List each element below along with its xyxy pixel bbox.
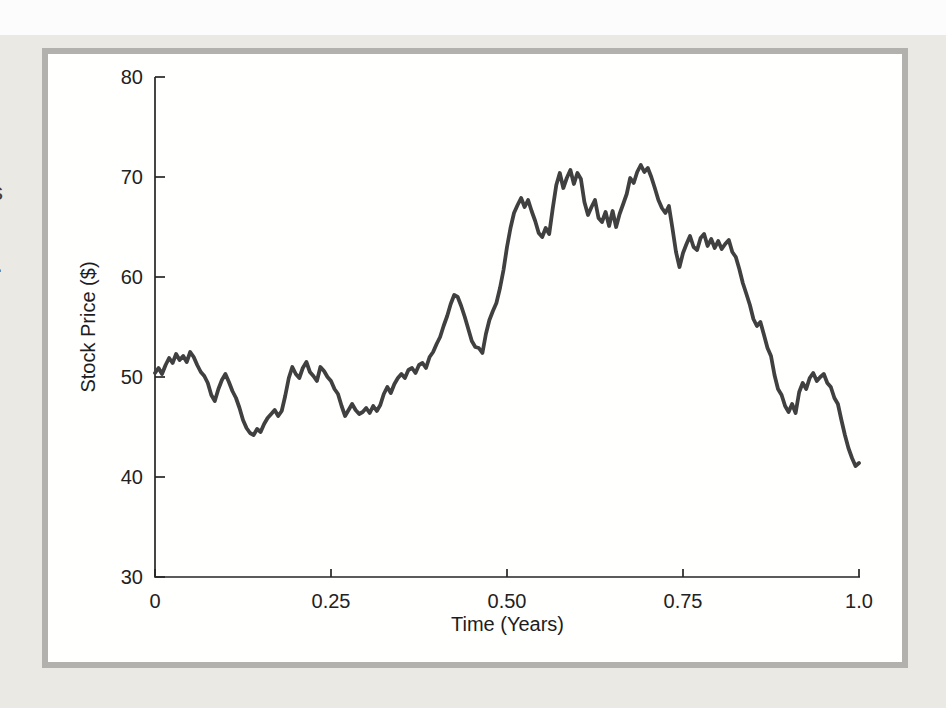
margin-text-fragment-dot: . — [0, 252, 3, 276]
figure-frame — [42, 48, 908, 668]
x-axis-title: Time (Years) — [155, 613, 860, 636]
y-axis-title: Stock Price ($) — [77, 261, 100, 392]
margin-text-fragment-s: s — [0, 180, 3, 204]
